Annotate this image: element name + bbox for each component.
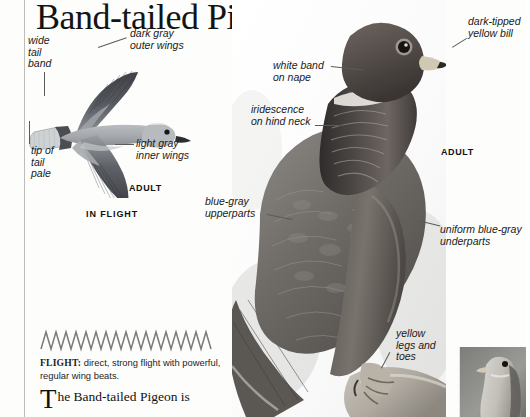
flight-pattern-caption: FLIGHT: direct, strong flight with power… <box>40 357 225 382</box>
callout-blue-gray-upperparts: blue-gray upperparts <box>205 196 273 219</box>
leader-dark-gray-outer-wings <box>98 37 127 48</box>
flight-pattern-graphic <box>40 329 212 353</box>
callout-tip-of-tail-pale: tip of tail pale <box>31 145 85 180</box>
leader-dark-tipped-yellow-bill <box>452 38 467 48</box>
inset-pigeon-photo <box>459 347 526 417</box>
body-paragraph: The Band-tailed Pigeon is <box>40 389 255 410</box>
callout-iridescence-on-hind-neck: iridescence on hind neck <box>251 104 337 127</box>
leader-light-gray-inner-wings <box>115 144 134 145</box>
callout-dark-gray-outer-wings: dark gray outer wings <box>130 28 222 51</box>
eye <box>398 41 410 53</box>
callout-white-band-on-nape: white band on nape <box>273 60 343 83</box>
drop-cap: T <box>40 389 58 410</box>
callout-uniform-blue-gray-underparts: uniform blue-gray underparts <box>440 224 525 247</box>
flight-age-label: ADULT <box>129 183 162 193</box>
callout-light-gray-inner-wings: light gray inner wings <box>136 138 224 161</box>
callout-yellow-legs-and-toes: yellow legs and toes <box>396 328 444 363</box>
inset-eye <box>502 361 508 367</box>
zigzag-flight-line <box>41 332 211 349</box>
in-flight-plate-label: IN FLIGHT <box>86 209 138 219</box>
adult-photo-age-label: ADULT <box>441 147 474 157</box>
flight-label: FLIGHT: <box>40 357 81 368</box>
leader-wide-tail-band <box>44 72 45 96</box>
eye <box>164 129 169 134</box>
leader-iridescence-on-hind-neck <box>315 125 343 126</box>
eye-catchlight <box>404 43 408 47</box>
page-margin-rule <box>24 0 25 417</box>
callout-wide-tail-band: wide tail band <box>28 35 88 70</box>
body-text: he Band-tailed Pigeon is <box>58 389 190 404</box>
callout-dark-tipped-yellow-bill: dark-tipped yellow bill <box>468 16 530 39</box>
leader-tip-of-tail-pale <box>29 121 30 144</box>
head <box>342 23 424 103</box>
